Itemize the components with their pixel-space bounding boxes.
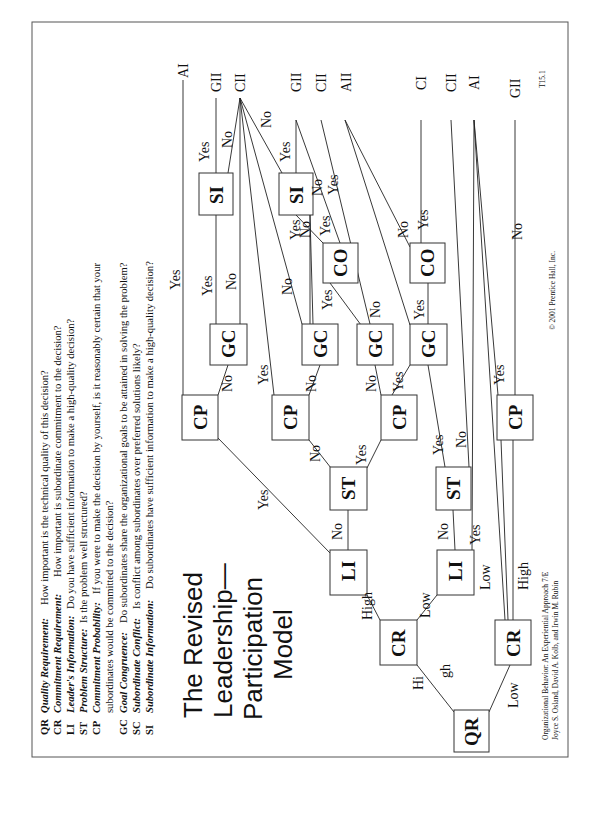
svg-text:No: No <box>396 221 411 238</box>
svg-text:Yes: Yes <box>197 142 212 162</box>
svg-text:CO: CO <box>417 249 438 278</box>
outcome-gii-2: GII <box>289 72 304 92</box>
svg-text:Yes: Yes <box>320 290 335 310</box>
node-si-2: SI <box>279 173 313 215</box>
svg-text:Yes: Yes <box>318 216 333 236</box>
svg-text:No: No <box>364 375 379 392</box>
svg-text:GC: GC <box>418 330 439 359</box>
svg-text:GC: GC <box>218 330 239 359</box>
svg-text:Commitment Probability:: Commitment Probability: <box>91 602 102 713</box>
svg-text:No: No <box>310 179 325 196</box>
svg-text:No: No <box>259 111 274 128</box>
svg-text:The Revised: The Revised <box>178 572 208 718</box>
node-cp-2: CP <box>272 395 309 440</box>
node-co-1: CO <box>323 243 358 283</box>
svg-text:No: No <box>436 523 451 540</box>
svg-text:Do subordinates have sufficien: Do subordinates have sufficient informat… <box>144 261 155 589</box>
svg-text:If you were to make the decisi: If you were to make the decision by your… <box>91 263 102 594</box>
svg-text:CR: CR <box>52 719 63 735</box>
svg-text:GC: GC <box>118 719 129 735</box>
svg-text:Quality Requirement:: Quality Requirement: <box>39 618 50 713</box>
svg-text:Yes: Yes <box>256 490 271 510</box>
svg-text:Low: Low <box>478 563 493 590</box>
outcome-aii: AII <box>339 72 354 92</box>
outcomes: AI GII CII GII CII AII CI CII AI GII <box>176 63 523 98</box>
node-cp-4: CP <box>497 395 533 440</box>
legend: QR Quality Requirement: How important is… <box>39 261 155 735</box>
svg-text:Low: Low <box>418 591 433 618</box>
svg-text:SI: SI <box>206 186 227 204</box>
node-gc-1: GC <box>210 324 247 365</box>
svg-text:Model: Model <box>268 609 298 680</box>
node-qr: QR <box>454 710 489 752</box>
svg-text:ST: ST <box>443 476 464 500</box>
svg-text:Is the problem well structured: Is the problem well structured? <box>78 491 89 623</box>
svg-text:No: No <box>224 273 239 290</box>
outcome-ai-1: AI <box>176 63 191 78</box>
legend-text-qr: How important is the technical quality o… <box>39 370 50 605</box>
svg-text:gh: gh <box>438 664 453 678</box>
svg-text:Yes: Yes <box>354 445 369 465</box>
node-li-2: LI <box>437 550 474 595</box>
svg-text:Hi: Hi <box>411 676 426 690</box>
copyright: © 2001 Prentice Hall, Inc. <box>548 251 557 330</box>
node-st-1: ST <box>330 467 367 510</box>
svg-text:ST: ST <box>338 476 359 500</box>
svg-text:GC: GC <box>365 330 386 359</box>
node-gc-3: GC <box>357 324 393 365</box>
node-si-1: SI <box>199 173 233 215</box>
svg-text:CO: CO <box>330 249 351 278</box>
svg-text:Commitment Requirement:: Commitment Requirement: <box>52 594 63 713</box>
svg-text:GC: GC <box>310 330 331 359</box>
svg-text:Participation: Participation <box>238 577 268 720</box>
node-gc-2: GC <box>302 324 338 365</box>
svg-text:CP: CP <box>91 720 102 735</box>
svg-text:Yes: Yes <box>288 220 303 240</box>
outcome-ci: CI <box>414 76 429 90</box>
node-li-1: LI <box>330 550 367 595</box>
slide-id: T15.1 <box>538 70 547 88</box>
outcome-gii-1: GII <box>209 72 224 92</box>
outcome-gii-3: GII <box>508 78 523 98</box>
svg-text:Problem Structure:: Problem Structure: <box>78 629 89 713</box>
svg-text:No: No <box>220 131 235 148</box>
svg-text:Goal Congruence:: Goal Congruence: <box>118 632 129 713</box>
svg-text:Yes: Yes <box>391 372 406 392</box>
svg-text:CP: CP <box>505 404 526 430</box>
svg-text:SI: SI <box>144 725 155 735</box>
svg-text:Subordinate Information:: Subordinate Information: <box>144 600 155 713</box>
svg-text:Yes: Yes <box>416 210 431 230</box>
legend-term-qr: Quality Requirement: <box>39 618 50 713</box>
svg-text:Yes: Yes <box>168 270 183 290</box>
svg-text:subordinates would be committe: subordinates would be committed to the d… <box>104 500 115 713</box>
svg-text:No: No <box>330 523 345 540</box>
svg-text:Do you have sufficient informa: Do you have sufficient information to ma… <box>65 319 76 609</box>
svg-text:SC: SC <box>131 721 142 735</box>
svg-text:LI: LI <box>338 561 359 581</box>
svg-text:No: No <box>368 301 383 318</box>
svg-text:Yes: Yes <box>200 276 215 296</box>
svg-text:CP: CP <box>280 404 301 430</box>
svg-text:CP: CP <box>389 404 410 430</box>
legend-code-qr: QR <box>39 719 50 735</box>
svg-text:Yes: Yes <box>431 435 446 455</box>
citation-line-2: Joyce S. Osland, David A. Kolb, and Irwi… <box>551 581 560 740</box>
svg-text:Yes: Yes <box>412 300 427 320</box>
svg-text:How important is subordinate c: How important is subordinate commitment … <box>52 325 63 577</box>
svg-text:LI: LI <box>65 724 76 735</box>
node-cr-low: CR <box>495 620 531 665</box>
svg-text:No: No <box>280 278 295 295</box>
svg-text:High: High <box>360 592 375 620</box>
node-cr-high: CR <box>380 620 417 665</box>
svg-text:CP: CP <box>190 404 211 430</box>
svg-text:Yes: Yes <box>326 175 341 195</box>
svg-text:Low: Low <box>506 681 521 708</box>
svg-text:SI: SI <box>286 186 307 204</box>
svg-text:QR: QR <box>461 717 482 746</box>
svg-text:LI: LI <box>445 561 466 581</box>
svg-text:CR: CR <box>503 629 524 657</box>
svg-text:No: No <box>454 431 469 448</box>
svg-text:Leader's Information:: Leader's Information: <box>65 616 76 714</box>
svg-text:Yes: Yes <box>278 142 293 162</box>
svg-text:Yes: Yes <box>468 525 483 545</box>
